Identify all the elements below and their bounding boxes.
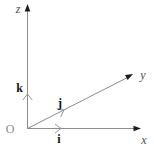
- x-axis-arrowhead-icon: [134, 126, 142, 132]
- coordinate-axes-diagram: z y x O k j i: [0, 0, 154, 151]
- z-axis-arrowhead-icon: [25, 4, 31, 12]
- y-axis-line: [28, 78, 128, 129]
- origin-label: O: [6, 122, 15, 136]
- i-vector-label: i: [57, 132, 61, 146]
- y-axis-arrowhead-icon: [125, 72, 134, 80]
- y-axis-label: y: [139, 68, 146, 82]
- z-axis-label: z: [15, 2, 21, 16]
- x-axis-label: x: [140, 133, 147, 147]
- k-vector-label: k: [16, 81, 23, 95]
- j-vector-label: j: [57, 96, 62, 110]
- axes-svg: z y x O k j i: [0, 0, 154, 151]
